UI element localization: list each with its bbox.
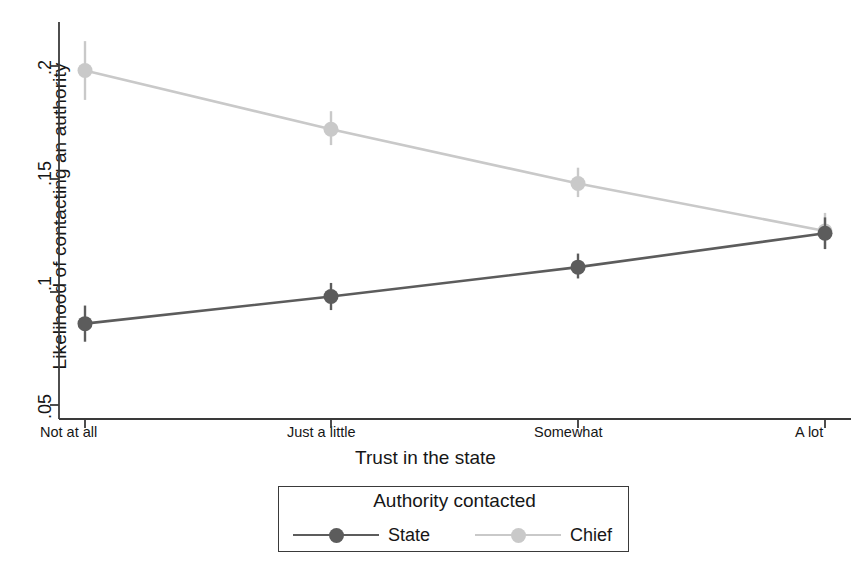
plot-area	[0, 0, 851, 470]
legend-label-chief: Chief	[570, 525, 612, 546]
legend-item-chief[interactable]: Chief	[475, 521, 612, 549]
legend-key-state-icon	[293, 526, 379, 544]
legend-entries: State Chief	[279, 521, 630, 551]
legend-label-state: State	[388, 525, 430, 546]
legend-title: Authority contacted	[279, 490, 630, 512]
legend-key-chief-icon	[475, 526, 561, 544]
legend: Authority contacted State Chief	[278, 486, 629, 552]
chart-figure: Likelihood of contacting an authority .2…	[0, 0, 851, 567]
legend-item-state[interactable]: State	[293, 521, 430, 549]
